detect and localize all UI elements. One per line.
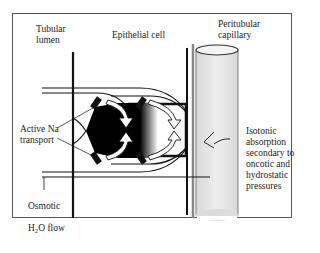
osmotic-line1: Osmotic bbox=[28, 201, 60, 211]
osmotic-flow-label: Osmotic H₂O flow bbox=[28, 190, 65, 234]
na-leader-line bbox=[57, 138, 93, 156]
capillary-cylinder bbox=[196, 45, 238, 221]
epithelial-cell-label: Epithelial cell bbox=[112, 30, 165, 41]
tubular-lumen-label: Tubular lumen bbox=[36, 24, 66, 46]
osmotic-line2: H₂O flow bbox=[28, 223, 65, 233]
na-leader-line bbox=[57, 108, 93, 128]
isotonic-absorption-label: Isotonic absorption secondary to oncotic… bbox=[246, 126, 294, 192]
active-na-transport-label: Active Na transport bbox=[20, 124, 59, 146]
peritubular-capillary-label: Peritubular capillary bbox=[218, 19, 260, 41]
